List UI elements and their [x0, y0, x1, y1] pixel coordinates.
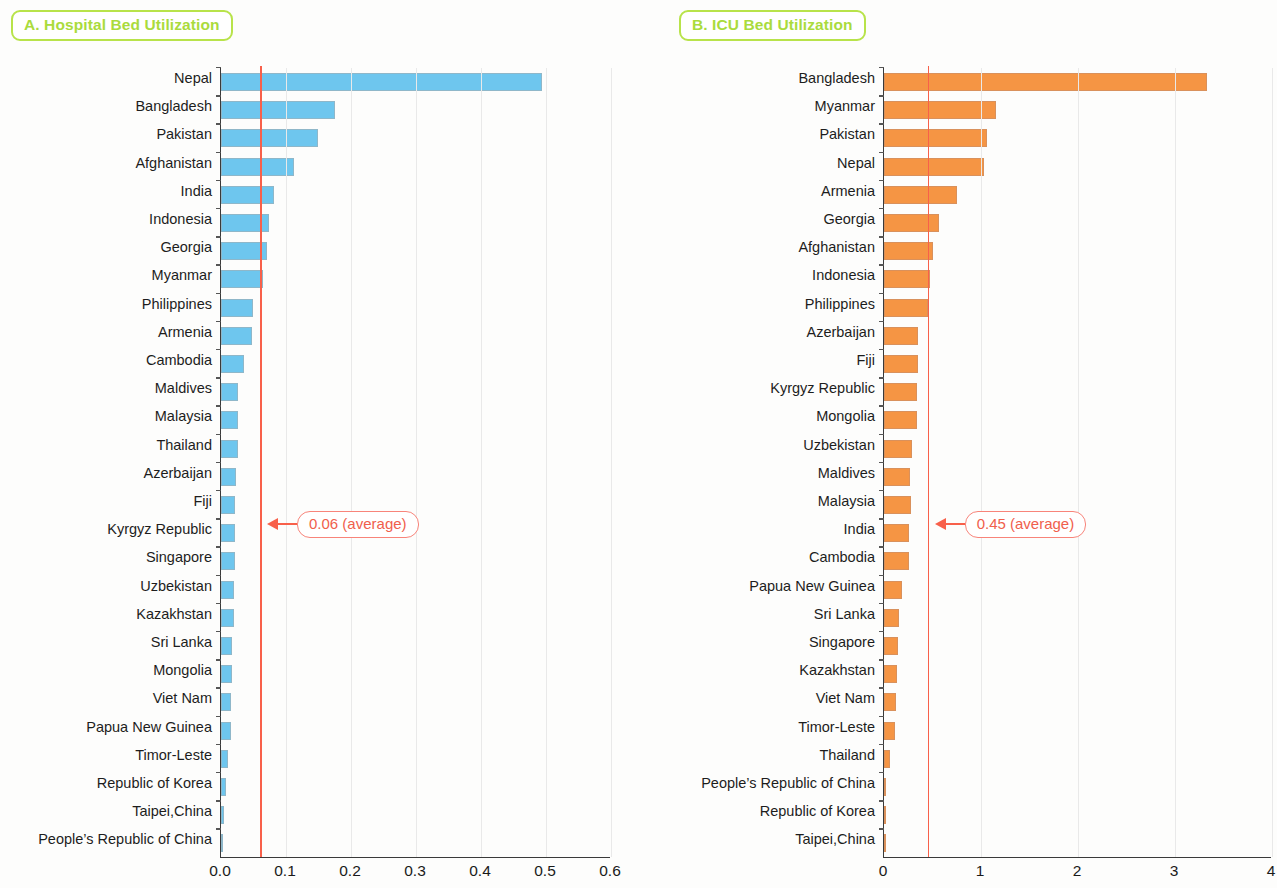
y-axis-tick	[879, 490, 884, 491]
category-label: Taipei,China	[795, 831, 875, 847]
y-axis-tick	[879, 518, 884, 519]
category-label: Azerbaijan	[143, 465, 212, 481]
gridline	[1175, 68, 1176, 857]
bar	[221, 214, 269, 232]
category-label: Maldives	[155, 380, 212, 396]
y-axis-tick	[879, 321, 884, 322]
category-label: Afghanistan	[798, 239, 875, 255]
x-axis-tick-label: 0.6	[599, 862, 621, 880]
bar	[884, 693, 896, 711]
category-label: Uzbekistan	[140, 578, 212, 594]
gridline	[546, 68, 547, 857]
bar	[884, 637, 898, 655]
bar	[884, 101, 996, 119]
x-axis-tick-label: 0.1	[274, 862, 296, 880]
gridline	[611, 68, 612, 857]
category-label: Indonesia	[149, 211, 212, 227]
y-axis-tick	[216, 377, 221, 378]
bar	[221, 750, 228, 768]
y-axis-tick	[879, 180, 884, 181]
bar	[884, 834, 886, 852]
bar	[884, 581, 902, 599]
y-axis-tick	[879, 293, 884, 294]
category-label: Philippines	[805, 296, 875, 312]
bar	[221, 270, 263, 288]
y-axis-tick	[216, 123, 221, 124]
y-axis-tick	[879, 744, 884, 745]
bar	[221, 834, 223, 852]
average-callout-b-label: 0.45 (average)	[965, 511, 1087, 538]
category-label: Kazakhstan	[136, 606, 212, 622]
category-label: Georgia	[160, 239, 212, 255]
y-axis-tick	[216, 800, 221, 801]
category-label: India	[181, 183, 212, 199]
x-axis-tick-label: 2	[1073, 862, 1082, 880]
average-callout-b: 0.45 (average)	[935, 511, 1087, 537]
bar	[221, 327, 252, 345]
y-axis-tick	[216, 744, 221, 745]
y-axis-tick	[879, 575, 884, 576]
y-axis-tick	[879, 687, 884, 688]
category-label: Azerbaijan	[806, 324, 875, 340]
bar	[884, 158, 984, 176]
bar	[221, 355, 244, 373]
x-axis-tick-label: 1	[976, 862, 985, 880]
category-label: Fiji	[193, 493, 212, 509]
y-axis-tick	[879, 236, 884, 237]
category-label: Indonesia	[812, 267, 875, 283]
category-label: Mongolia	[816, 408, 875, 424]
average-line-b	[928, 66, 930, 857]
category-label: Nepal	[174, 70, 212, 86]
arrow-stem	[946, 523, 965, 525]
x-axis-tick-label: 3	[1170, 862, 1179, 880]
category-label: Myanmar	[815, 98, 875, 114]
category-label: Nepal	[837, 155, 875, 171]
gridline	[416, 68, 417, 857]
category-label: Papua New Guinea	[86, 719, 212, 735]
category-label: Pakistan	[156, 126, 212, 142]
average-callout-a: 0.06 (average)	[267, 511, 419, 537]
category-label: Cambodia	[809, 549, 875, 565]
y-axis-tick	[879, 264, 884, 265]
x-axis-tick-label: 0.5	[534, 862, 556, 880]
y-axis-tick	[216, 518, 221, 519]
gridline	[481, 68, 482, 857]
y-axis-tick	[216, 349, 221, 350]
y-axis-tick	[216, 321, 221, 322]
category-label: Afghanistan	[135, 155, 212, 171]
y-axis-tick	[879, 772, 884, 773]
y-axis-tick	[879, 67, 884, 68]
category-label: Thailand	[819, 747, 875, 763]
y-axis-tick	[879, 462, 884, 463]
bar	[221, 806, 224, 824]
bar	[221, 609, 234, 627]
chart-panel-hospital-bed-utilization: A. Hospital Bed Utilization NepalBanglad…	[0, 0, 640, 888]
y-axis-tick	[879, 123, 884, 124]
y-axis-tick	[879, 434, 884, 435]
bar	[884, 750, 890, 768]
x-axis-tick-label: 0.3	[404, 862, 426, 880]
panel-b-title: B. ICU Bed Utilization	[679, 10, 866, 41]
bar	[884, 129, 987, 147]
bar	[884, 355, 918, 373]
bar	[884, 214, 939, 232]
category-label: Kazakhstan	[799, 662, 875, 678]
figure-page: A. Hospital Bed Utilization NepalBanglad…	[0, 0, 1277, 888]
y-axis-tick	[216, 659, 221, 660]
y-axis-tick	[879, 405, 884, 406]
bar	[884, 609, 899, 627]
y-axis-tick	[879, 349, 884, 350]
bar	[884, 722, 895, 740]
bar	[221, 129, 318, 147]
bar	[221, 468, 236, 486]
y-axis-tick	[216, 434, 221, 435]
category-label: Republic of Korea	[760, 803, 875, 819]
x-axis-tick-label: 0	[879, 862, 888, 880]
bar	[221, 299, 253, 317]
bar	[221, 581, 234, 599]
bar	[884, 524, 909, 542]
gridline	[286, 68, 287, 857]
plot-area-a: NepalBangladeshPakistanAfghanistanIndiaI…	[220, 68, 610, 858]
x-axis-tick-label: 0.0	[209, 862, 231, 880]
y-axis-tick	[216, 236, 221, 237]
